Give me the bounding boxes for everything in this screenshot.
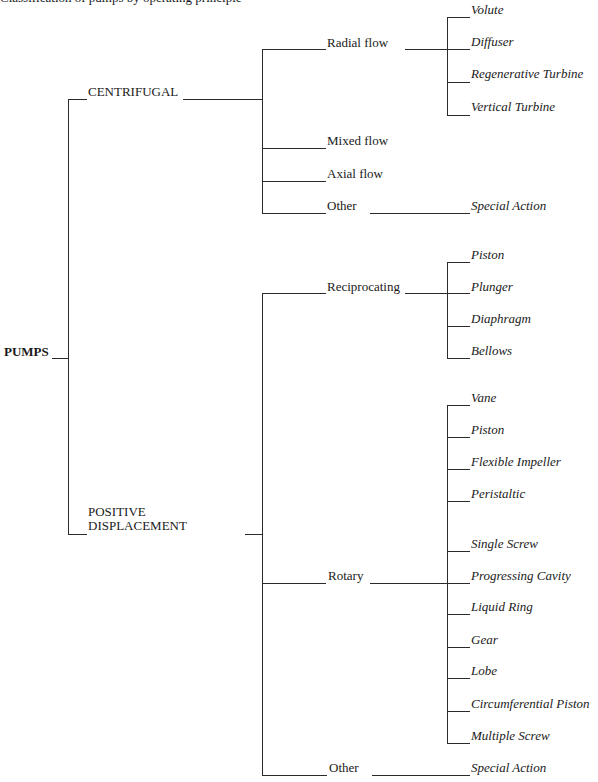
type-vertical-turbine: Vertical Turbine (471, 99, 555, 114)
recip-piston-connector (447, 262, 470, 263)
centrifugal-other-label: Other (327, 198, 357, 213)
diaphragm-connector (447, 326, 470, 327)
diffuser-connector (447, 49, 470, 50)
type-special-action-centrifugal: Special Action (471, 198, 546, 213)
pump-classification-diagram: Classification of pumps by operating pri… (0, 0, 598, 782)
rotary-label: Rotary (328, 568, 363, 583)
volute-connector (447, 17, 470, 18)
centrifugal-other-connector (262, 213, 326, 214)
pd-other-label: Other (329, 760, 359, 775)
flexible-impeller-connector (447, 469, 470, 470)
pd-label-line1: POSITIVE (88, 504, 146, 519)
rotary-connector (262, 583, 326, 584)
root-label: PUMPS (4, 344, 49, 359)
root-connector (52, 358, 69, 359)
centrifugal-other-connector-right (370, 213, 470, 214)
pd-other-connector-right (372, 775, 470, 776)
type-multiple-screw: Multiple Screw (471, 728, 550, 743)
pd-connector-left (68, 534, 87, 535)
type-rotary-piston: Piston (471, 422, 504, 437)
plunger-connector (447, 293, 470, 294)
liquid-ring-connector (447, 614, 470, 615)
radial-flow-connector (262, 49, 326, 50)
centrifugal-connector-right (183, 99, 263, 100)
type-volute: Volute (471, 2, 504, 17)
type-circumferential-piston: Circumferential Piston (471, 696, 590, 711)
reciprocating-connector (262, 293, 326, 294)
type-bellows: Bellows (471, 343, 512, 358)
type-recip-piston: Piston (471, 247, 504, 262)
peristaltic-connector (447, 501, 470, 502)
mixed-flow-connector (262, 148, 326, 149)
pd-connector-right (245, 534, 263, 535)
type-flexible-impeller: Flexible Impeller (471, 454, 561, 469)
multiple-screw-connector (447, 743, 470, 744)
reciprocating-connector-right (405, 293, 448, 294)
type-diffuser: Diffuser (471, 34, 514, 49)
type-plunger: Plunger (471, 279, 513, 294)
gear-connector (447, 647, 470, 648)
circumferential-piston-connector (447, 711, 470, 712)
single-screw-connector (447, 551, 470, 552)
type-peristaltic: Peristaltic (471, 486, 525, 501)
rotary-connector-right (370, 583, 448, 584)
reciprocating-label: Reciprocating (327, 279, 400, 294)
rotary-vertical (447, 405, 448, 744)
centrifugal-vertical (262, 49, 263, 214)
progressing-cavity-connector (447, 583, 470, 584)
reciprocating-vertical (447, 262, 448, 359)
regenerative-turbine-connector (447, 82, 470, 83)
radial-flow-label: Radial flow (327, 35, 388, 50)
type-progressing-cavity: Progressing Cavity (471, 568, 571, 583)
vertical-turbine-connector (447, 115, 470, 116)
mixed-flow-label: Mixed flow (327, 133, 388, 148)
pd-label-line2: DISPLACEMENT (88, 518, 187, 533)
type-diaphragm: Diaphragm (471, 311, 531, 326)
root-vertical (68, 99, 69, 535)
axial-flow-label: Axial flow (327, 166, 383, 181)
vane-connector (447, 405, 470, 406)
lobe-connector (447, 678, 470, 679)
radial-flow-vertical (447, 17, 448, 116)
pd-vertical (262, 293, 263, 776)
diagram-caption: Classification of pumps by operating pri… (0, 0, 242, 6)
radial-flow-connector-right (405, 49, 448, 50)
type-single-screw: Single Screw (471, 536, 538, 551)
type-special-action-pd: Special Action (471, 760, 546, 775)
pd-other-connector (262, 775, 327, 776)
type-vane: Vane (471, 390, 496, 405)
bellows-connector (447, 358, 470, 359)
rotary-piston-connector (447, 437, 470, 438)
axial-flow-connector (262, 181, 326, 182)
centrifugal-connector-left (68, 99, 87, 100)
type-regenerative-turbine: Regenerative Turbine (471, 66, 583, 81)
type-liquid-ring: Liquid Ring (471, 599, 533, 614)
centrifugal-label: CENTRIFUGAL (88, 84, 178, 99)
type-gear: Gear (471, 632, 498, 647)
type-lobe: Lobe (471, 663, 497, 678)
